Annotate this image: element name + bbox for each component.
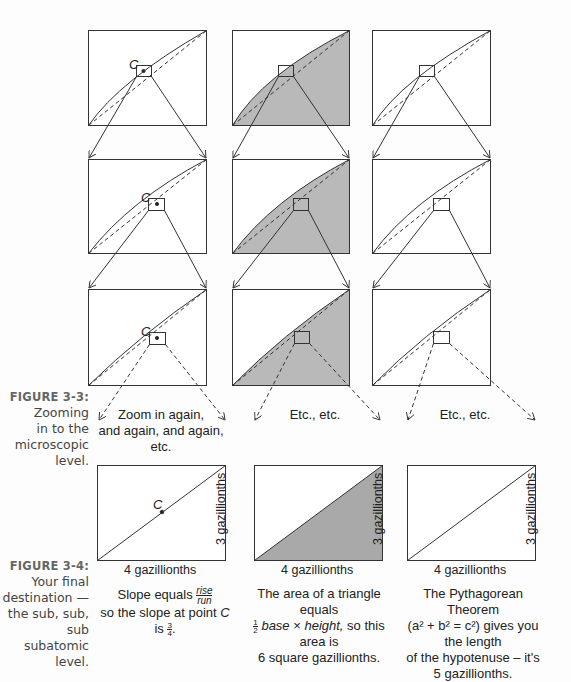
column-3-note: Etc., etc. bbox=[400, 407, 530, 423]
caption-line: level. bbox=[0, 453, 89, 469]
figure-3-3-caption: FIGURE 3-3: Zooming in to the microscopi… bbox=[0, 389, 89, 469]
figure-3-3-label: FIGURE 3-3: bbox=[0, 389, 89, 405]
area-line-2: 1 2 base × height, so this area is bbox=[244, 618, 394, 650]
caption-line: destination — bbox=[0, 590, 89, 606]
point-c-label-final: C bbox=[153, 497, 162, 512]
area-line-3: 6 square gazillionths. bbox=[244, 650, 394, 666]
caption-line: level. bbox=[0, 654, 89, 670]
panel-2-base-label: 4 gazillionths bbox=[281, 563, 353, 577]
note-line: Zoom in again, bbox=[96, 407, 226, 423]
caption-line: Zooming bbox=[0, 405, 89, 421]
fraction-denominator: run bbox=[196, 596, 212, 605]
panel-3-height-label: 3 gazillionths bbox=[524, 473, 538, 545]
note-line: and again, and again, etc. bbox=[96, 423, 226, 455]
caption-line: sub subatomic bbox=[0, 622, 89, 654]
caption-line: microscopic bbox=[0, 437, 89, 453]
pythagoras-line-3: of the hypotenuse – it's bbox=[398, 650, 548, 666]
fraction-denominator: 2 bbox=[253, 627, 257, 634]
slope-line-2: so the slope at point C is 3 4 . bbox=[95, 605, 235, 637]
final-panels bbox=[98, 466, 536, 561]
point-c-label-row2: C bbox=[141, 190, 150, 205]
caption-line: the sub, sub, bbox=[0, 606, 89, 622]
panel-1-base-label: 4 gazillionths bbox=[124, 563, 196, 577]
slope-text: is bbox=[154, 621, 163, 636]
slope-text: so the slope at point bbox=[100, 605, 216, 620]
times-sign: × bbox=[290, 618, 305, 633]
caption-line: in to the bbox=[0, 421, 89, 437]
panel-2-explanation: The area of a triangle equals 1 2 base ×… bbox=[244, 586, 394, 666]
panel-1-explanation: Slope equals rise run so the slope at po… bbox=[95, 586, 235, 637]
pythagoras-line-2: (a² + b² = c²) gives you the length bbox=[398, 618, 548, 650]
base-term: base bbox=[261, 618, 289, 633]
panel-3-base-label: 4 gazillionths bbox=[434, 563, 506, 577]
caption-line: Your final bbox=[0, 574, 89, 590]
slope-text: Slope equals bbox=[118, 587, 193, 602]
point-c-label-row1: C bbox=[129, 57, 138, 72]
column-3 bbox=[373, 31, 536, 421]
column-2-note: Etc., etc. bbox=[250, 407, 380, 423]
one-half-fraction: 1 2 bbox=[253, 619, 257, 634]
panel-1-height-label: 3 gazillionths bbox=[214, 473, 228, 545]
slope-line-1: Slope equals rise run bbox=[95, 586, 235, 605]
column-1 bbox=[89, 31, 226, 421]
panel-2-height-label: 3 gazillionths bbox=[371, 473, 385, 545]
column-1-note: Zoom in again, and again, and again, etc… bbox=[96, 407, 226, 455]
pythagoras-line-4: 5 gazillionths. bbox=[398, 666, 548, 682]
period: . bbox=[172, 621, 176, 636]
pythagoras-line-1: The Pythagorean Theorem bbox=[398, 586, 548, 618]
figure-3-4-caption: FIGURE 3-4: Your final destination — the… bbox=[0, 558, 89, 670]
panel-3-explanation: The Pythagorean Theorem (a² + b² = c²) g… bbox=[398, 586, 548, 682]
height-term: height, bbox=[304, 618, 343, 633]
point-name: C bbox=[220, 605, 229, 620]
point-c-label-row3: C bbox=[141, 324, 150, 339]
figure-3-4-label: FIGURE 3-4: bbox=[0, 558, 89, 574]
area-line-1: The area of a triangle equals bbox=[244, 586, 394, 618]
rise-over-run-fraction: rise run bbox=[196, 586, 212, 605]
column-2 bbox=[233, 31, 381, 421]
